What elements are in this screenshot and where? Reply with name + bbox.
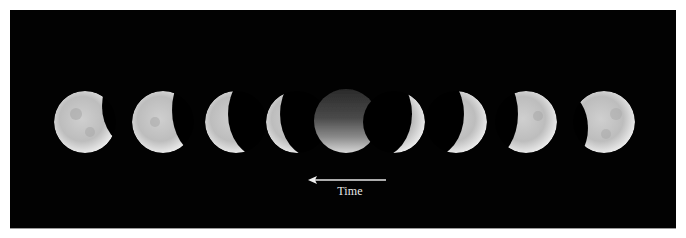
left-arrow-icon [308,176,386,184]
moon-9 [544,91,635,162]
eclipse-photo-panel: Time [10,10,676,229]
time-label: Time [330,184,370,199]
